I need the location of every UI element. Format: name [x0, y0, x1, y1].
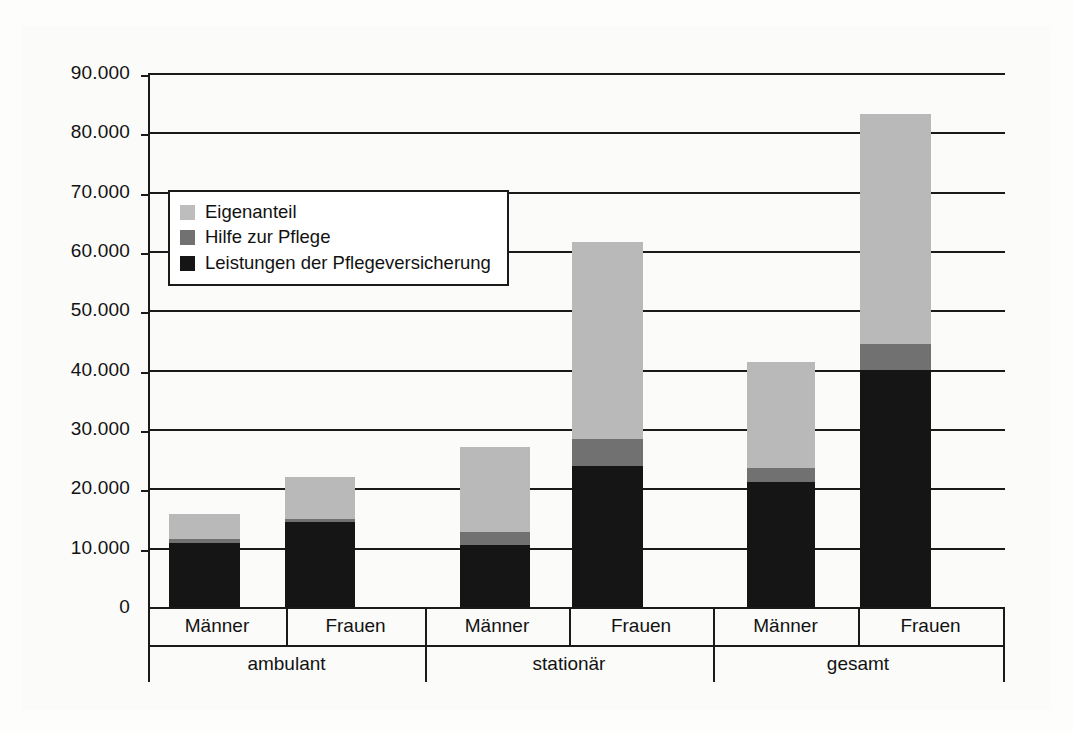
x-category-label-ambulant-maenner: Männer	[148, 615, 286, 637]
plot-area	[148, 73, 1005, 607]
gridline-90000	[150, 73, 1005, 75]
bar-stationaer-maenner	[460, 447, 530, 607]
bar-segment-eigenanteil	[860, 114, 931, 344]
x-group-label-gesamt: gesamt	[713, 653, 1003, 675]
bar-segment-eigenanteil	[572, 242, 643, 438]
x-category-label-gesamt-frauen: Frauen	[858, 615, 1003, 637]
y-axis-tick-label: 90.000	[71, 62, 130, 84]
bar-ambulant-frauen	[285, 477, 355, 608]
legend-swatch-icon	[180, 230, 195, 245]
y-axis-tick-label: 10.000	[71, 537, 130, 559]
bar-segment-hilfe-zur-pflege	[572, 439, 643, 467]
y-axis-tick-label: 30.000	[71, 418, 130, 440]
y-axis-tick-label: 70.000	[71, 181, 130, 203]
y-axis-tick-label: 80.000	[71, 121, 130, 143]
legend-label: Hilfe zur Pflege	[205, 225, 330, 249]
bar-segment-eigenanteil	[169, 514, 240, 540]
bar-stationaer-frauen	[572, 242, 643, 607]
x-axis-line	[148, 607, 1005, 609]
bar-segment-hilfe-zur-pflege	[460, 532, 530, 545]
x-category-label-gesamt-maenner: Männer	[713, 615, 858, 637]
y-axis-tick-label: 60.000	[71, 240, 130, 262]
legend-item-hilfe-zur-pflege: Hilfe zur Pflege	[180, 225, 491, 249]
y-axis-tick-label: 0	[119, 596, 130, 618]
bar-gesamt-frauen	[860, 114, 931, 607]
legend-item-eigenanteil: Eigenanteil	[180, 200, 491, 224]
chart-legend: Eigenanteil Hilfe zur Pflege Leistungen …	[168, 190, 509, 286]
y-axis-labels: 90.000 80.000 70.000 60.000 50.000 40.00…	[0, 73, 130, 607]
legend-item-leistungen: Leistungen der Pflegeversicherung	[180, 251, 491, 275]
x-category-label-stationaer-frauen: Frauen	[569, 615, 713, 637]
x-category-label-ambulant-frauen: Frauen	[286, 615, 425, 637]
y-axis-tick-label: 50.000	[71, 299, 130, 321]
bar-segment-hilfe-zur-pflege	[747, 468, 815, 482]
bar-segment-leistungen	[285, 522, 355, 607]
bar-segment-eigenanteil	[747, 362, 815, 468]
x-category-label-stationaer-maenner: Männer	[425, 615, 569, 637]
y-axis-tick-label: 20.000	[71, 477, 130, 499]
chart-figure: 90.000 80.000 70.000 60.000 50.000 40.00…	[0, 0, 1073, 733]
bar-segment-hilfe-zur-pflege	[860, 344, 931, 370]
bar-segment-leistungen	[747, 482, 815, 607]
category-row-divider	[148, 645, 1003, 647]
bar-ambulant-maenner	[169, 514, 240, 607]
y-axis-tick-label: 40.000	[71, 359, 130, 381]
bar-gesamt-maenner	[747, 362, 815, 607]
bar-segment-eigenanteil	[285, 477, 355, 520]
legend-swatch-icon	[180, 256, 195, 271]
x-group-label-ambulant: ambulant	[148, 653, 425, 675]
legend-label: Eigenanteil	[205, 200, 297, 224]
bar-segment-leistungen	[460, 545, 530, 607]
x-group-label-stationaer: stationär	[425, 653, 713, 675]
bar-segment-leistungen	[860, 370, 931, 607]
x-axis-label-area: Männer Frauen Männer Frauen Männer Fraue…	[148, 607, 1005, 682]
legend-swatch-icon	[180, 205, 195, 220]
group-separator	[1003, 607, 1005, 682]
bar-segment-leistungen	[169, 543, 240, 607]
bar-segment-leistungen	[572, 466, 643, 607]
bar-segment-eigenanteil	[460, 447, 530, 532]
legend-label: Leistungen der Pflegeversicherung	[205, 251, 491, 275]
